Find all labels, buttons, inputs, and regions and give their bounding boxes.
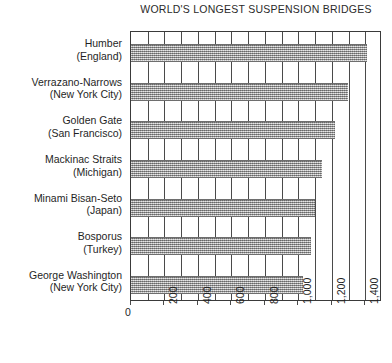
y-label-bridge-name: George Washington [29,269,122,281]
y-label-bridge-name: Verrazano-Narrows [32,76,122,88]
bar-verrazano-narrows [131,83,348,101]
x-tick-label-400: 400 [201,286,213,304]
y-label-bridge-location: (England) [76,50,122,63]
bar-row [131,160,380,178]
bar-bosporus [131,237,311,255]
y-label-bridge-name: Humber [85,37,122,49]
x-tick-label-200: 200 [167,286,179,304]
bars-layer [131,32,380,300]
y-label-bridge-location: (Michigan) [45,166,122,179]
bar-mackinac-straits [131,160,322,178]
x-axis-tick-labels: 02004006008001,0001,2001,400 [0,304,392,362]
y-label-verrazano-narrows: Verrazano-Narrows(New York City) [32,76,122,101]
bar-row [131,237,380,255]
x-tick-label-1200: 1,200 [335,278,347,304]
x-tick-label-0: 0 [125,306,131,318]
y-label-humber: Humber(England) [76,37,122,62]
bar-row [131,199,380,217]
y-label-bridge-location: (Turkey) [78,243,122,256]
y-label-bridge-name: Golden Gate [62,114,122,126]
y-label-george-washington: George Washington(New York City) [29,269,122,294]
bar-golden-gate [131,121,335,139]
x-tick-label-1000: 1,000 [301,278,313,304]
y-axis-category-labels: Humber(England)Verrazano-Narrows(New Yor… [0,31,126,301]
chart-title: WORLD'S LONGEST SUSPENSION BRIDGES [130,3,382,15]
bar-row [131,121,380,139]
bar-row [131,83,380,101]
plot-area [130,31,381,301]
y-label-golden-gate: Golden Gate(San Francisco) [48,114,122,139]
y-label-bridge-name: Minami Bisan-Seto [34,192,122,204]
y-label-mackinac-straits: Mackinac Straits(Michigan) [45,153,122,178]
y-label-bridge-name: Bosporus [78,230,122,242]
y-label-bridge-location: (Japan) [34,204,122,217]
y-label-bridge-name: Mackinac Straits [45,153,122,165]
bar-minami-bisan-seto [131,199,315,217]
x-tick-label-600: 600 [234,286,246,304]
y-label-bridge-location: (San Francisco) [48,127,122,140]
y-label-bosporus: Bosporus(Turkey) [78,230,122,255]
y-label-bridge-location: (New York City) [32,88,122,101]
y-label-bridge-location: (New York City) [29,281,122,294]
bar-humber [131,44,367,62]
bar-row [131,44,380,62]
x-tick-label-1400: 1,400 [368,278,380,304]
x-tick-label-800: 800 [268,286,280,304]
chart-figure: WORLD'S LONGEST SUSPENSION BRIDGES Humbe… [0,0,392,363]
y-label-minami-bisan-seto: Minami Bisan-Seto(Japan) [34,192,122,217]
